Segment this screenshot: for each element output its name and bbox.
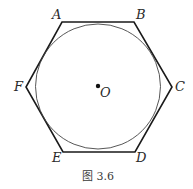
- center-label-O: O: [100, 85, 111, 100]
- vertex-label-F: F: [13, 79, 24, 94]
- vertex-label-B: B: [135, 7, 146, 22]
- figure-caption: 图 3.6: [82, 170, 114, 183]
- vertex-label-D: D: [135, 150, 147, 165]
- vertex-label-A: A: [51, 7, 61, 22]
- vertex-label-C: C: [175, 79, 185, 94]
- hexagon-incircle-diagram: A B C D E F O 图 3.6: [0, 0, 193, 189]
- vertex-label-E: E: [51, 150, 62, 165]
